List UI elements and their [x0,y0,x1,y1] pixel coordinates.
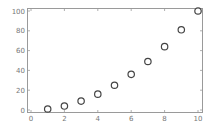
x-tick-label: 0 [29,115,33,123]
x-tick-label: 2 [62,115,66,123]
data-point-marker [195,8,201,14]
y-tick-label: 80 [16,27,25,35]
y-tick-label: 100 [12,8,25,16]
data-point-marker [111,82,117,88]
data-point-marker [178,27,184,33]
y-axis: 020406080100 [12,8,203,115]
data-point-marker [61,103,67,109]
scatter-chart: 0246810 020406080100 [0,0,213,131]
x-axis: 0246810 [29,9,203,124]
x-tick-label: 4 [96,115,101,123]
x-tick-label: 6 [129,115,134,123]
data-point-marker [45,106,51,112]
y-tick-label: 20 [16,87,25,95]
data-point-marker [128,71,134,77]
data-points [45,8,202,112]
y-tick-label: 0 [21,107,25,115]
data-point-marker [161,43,167,49]
plot-frame [28,9,203,113]
data-point-marker [145,58,151,64]
data-point-marker [95,91,101,97]
y-tick-label: 60 [16,47,25,55]
x-tick-label: 8 [162,115,166,123]
x-tick-label: 10 [194,115,203,123]
y-tick-label: 40 [16,67,25,75]
data-point-marker [78,98,84,104]
